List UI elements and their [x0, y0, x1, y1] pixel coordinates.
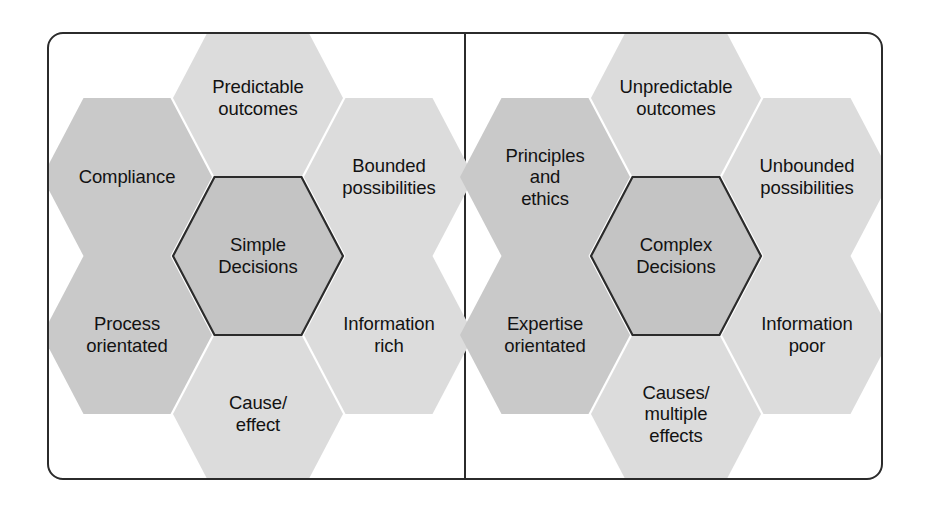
hexagon-label: Predictableoutcomes: [196, 76, 319, 119]
center-hexagon-simple-decisions: SimpleDecisions: [171, 175, 345, 337]
hexagon-label: Unboundedpossibilities: [744, 155, 871, 198]
hexagon-label: Processorientated: [70, 313, 183, 356]
honeycomb-right: UnpredictableoutcomesUnboundedpossibilit…: [467, 34, 883, 478]
hexagon-label: Expertiseorientated: [488, 313, 601, 356]
hexagon-label: ComplexDecisions: [620, 234, 731, 277]
hexagon-label: Informationpoor: [745, 313, 868, 356]
hexagon-label: SimpleDecisions: [202, 234, 313, 277]
hexagon-label: Principlesandethics: [489, 145, 600, 210]
panel-complex-decisions: UnpredictableoutcomesUnboundedpossibilit…: [467, 34, 883, 478]
hexagon-label: Boundedpossibilities: [326, 155, 451, 198]
hexagon-label: Causes/multipleeffects: [626, 382, 725, 447]
hexagon-label: Compliance: [63, 166, 192, 188]
panel-simple-decisions: PredictableoutcomesBoundedpossibilitiesI…: [49, 34, 467, 478]
center-hexagon-complex-decisions: ComplexDecisions: [589, 175, 763, 337]
diagram-frame: PredictableoutcomesBoundedpossibilitiesI…: [47, 32, 883, 480]
hexagon-label: Informationrich: [327, 313, 450, 356]
hexagon-label: Cause/effect: [213, 392, 303, 435]
hexagon-label: Unpredictableoutcomes: [604, 76, 749, 119]
honeycomb-left: PredictableoutcomesBoundedpossibilitiesI…: [49, 34, 467, 478]
